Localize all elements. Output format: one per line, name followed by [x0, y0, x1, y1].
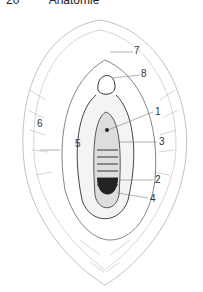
label-2: 2 — [155, 174, 161, 185]
clitoral-hood — [98, 75, 115, 94]
label-5: 5 — [75, 138, 81, 149]
label-3: 3 — [159, 136, 165, 147]
label-8: 8 — [141, 68, 147, 79]
label-7: 7 — [134, 45, 140, 56]
label-4: 4 — [150, 193, 156, 204]
label-1: 1 — [155, 106, 161, 117]
label-6: 6 — [37, 118, 43, 129]
anatomical-illustration — [0, 0, 203, 292]
